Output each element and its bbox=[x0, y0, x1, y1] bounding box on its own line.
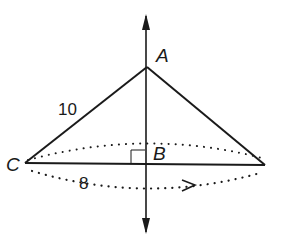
label-vertex-c: C bbox=[6, 154, 20, 175]
label-radius-length: 8 bbox=[79, 174, 88, 193]
label-vertex-b: B bbox=[153, 143, 166, 164]
segment-cb-diameter bbox=[25, 163, 265, 165]
label-vertex-a: A bbox=[155, 45, 169, 66]
cone-rotation-diagram: A B C 10 8 bbox=[0, 0, 284, 241]
label-hypotenuse-length: 10 bbox=[58, 100, 77, 119]
rotation-direction-icon bbox=[182, 180, 195, 191]
segment-ac bbox=[25, 67, 147, 163]
axis-arrow-down-icon bbox=[142, 218, 150, 234]
rotation-ellipse-back bbox=[28, 143, 262, 160]
axis-arrow-up-icon bbox=[142, 14, 150, 30]
right-angle-mark bbox=[131, 150, 145, 164]
